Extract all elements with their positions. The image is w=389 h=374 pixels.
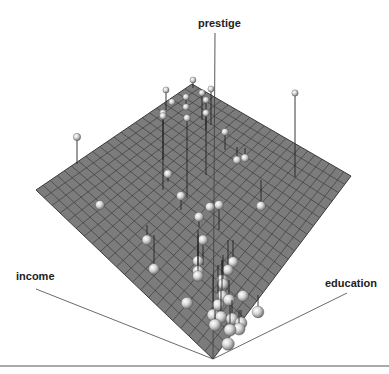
data-point-sphere (193, 271, 204, 282)
data-point-sphere (190, 77, 196, 83)
education-axis-label: education (325, 277, 377, 289)
data-point-sphere (252, 306, 264, 318)
data-point-sphere (163, 87, 169, 93)
data-point-sphere (183, 94, 189, 100)
data-point-sphere (177, 192, 186, 201)
data-point-sphere (203, 97, 210, 104)
data-point-sphere (164, 170, 172, 178)
data-point-sphere (181, 297, 193, 309)
data-point-sphere (256, 201, 265, 210)
data-point-sphere (218, 279, 229, 290)
data-point-sphere (224, 324, 236, 336)
data-point-sphere (73, 133, 80, 140)
data-point-sphere (169, 99, 176, 106)
data-point-sphere (205, 202, 214, 211)
data-point-sphere (208, 86, 214, 92)
data-point-sphere (214, 200, 223, 209)
data-point-sphere (183, 104, 190, 111)
data-point-sphere (237, 290, 248, 301)
scatter3d-plot (0, 0, 389, 374)
data-point-sphere (209, 319, 221, 331)
data-point-sphere (198, 235, 208, 245)
data-point-sphere (292, 90, 298, 96)
data-point-sphere (221, 128, 228, 135)
data-point-sphere (241, 154, 249, 162)
data-point-sphere (160, 113, 167, 120)
data-point-sphere (203, 110, 210, 117)
data-point-sphere (95, 200, 104, 209)
data-point-sphere (199, 90, 205, 96)
data-point-sphere (223, 265, 234, 276)
income-axis-label: income (16, 270, 55, 282)
data-point-sphere (222, 338, 235, 351)
data-point-sphere (184, 115, 191, 122)
regression-plane (36, 84, 351, 359)
prestige-axis-label: prestige (198, 17, 241, 29)
data-point-sphere (223, 294, 235, 306)
data-point-sphere (149, 264, 160, 275)
data-point-sphere (194, 212, 203, 221)
data-point-sphere (142, 235, 152, 245)
data-point-sphere (233, 156, 241, 164)
